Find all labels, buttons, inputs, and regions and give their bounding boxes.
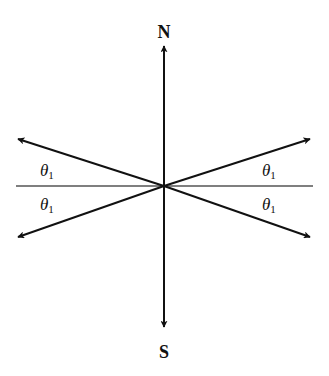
- theta-upper-right-label: θ1: [262, 161, 276, 181]
- south-label: S: [159, 342, 169, 362]
- theta-upper-left-label: θ1: [40, 161, 54, 181]
- theta-lower-left-label: θ1: [40, 195, 54, 215]
- upper-right-arrow: [164, 139, 310, 186]
- lower-right-arrow: [164, 186, 310, 237]
- compass-diagram: N S θ1 θ1 θ1 θ1: [0, 0, 329, 376]
- theta-lower-right-label: θ1: [262, 195, 276, 215]
- north-label: N: [158, 22, 171, 42]
